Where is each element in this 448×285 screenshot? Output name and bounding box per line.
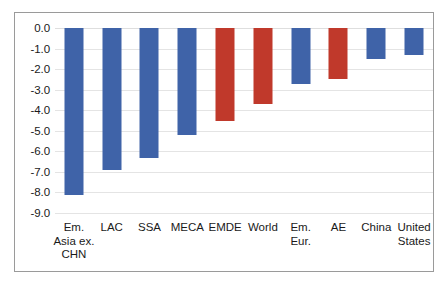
x-axis-tick-line: Eur. — [277, 235, 324, 249]
bar[interactable] — [405, 28, 424, 55]
bar[interactable] — [140, 28, 159, 158]
y-axis-tick-label: 0.0 — [34, 22, 50, 34]
bar[interactable] — [178, 28, 197, 135]
bar[interactable] — [291, 28, 310, 84]
x-axis-tick-line: Asia ex. — [50, 235, 97, 249]
bar[interactable] — [64, 28, 83, 195]
x-axis-tick-line: States — [391, 235, 438, 249]
bar[interactable] — [329, 28, 348, 79]
y-axis-tick-label: -1.0 — [31, 43, 50, 55]
chart-axis-area: 0.0-1.0-2.0-3.0-4.0-5.0-6.0-7.0-8.0-9.0 … — [15, 13, 433, 271]
y-axis-tick-label: -5.0 — [31, 125, 50, 137]
bar[interactable] — [253, 28, 272, 104]
y-axis: 0.0-1.0-2.0-3.0-4.0-5.0-6.0-7.0-8.0-9.0 — [15, 13, 55, 271]
bar[interactable] — [216, 28, 235, 121]
y-axis-tick-label: -8.0 — [31, 186, 50, 198]
bar[interactable] — [102, 28, 121, 170]
y-axis-tick-label: -3.0 — [31, 84, 50, 96]
x-axis-tick-line: CHN — [50, 248, 97, 262]
y-axis-tick-label: -4.0 — [31, 104, 50, 116]
chart-plot-frame: 0.0-1.0-2.0-3.0-4.0-5.0-6.0-7.0-8.0-9.0 … — [14, 12, 434, 272]
chart-figure: 0.0-1.0-2.0-3.0-4.0-5.0-6.0-7.0-8.0-9.0 … — [0, 0, 448, 285]
bar[interactable] — [367, 28, 386, 59]
y-axis-tick-label: -9.0 — [31, 207, 50, 219]
y-axis-tick-label: -6.0 — [31, 145, 50, 157]
y-axis-tick-label: -7.0 — [31, 166, 50, 178]
x-axis-tick-label: UnitedStates — [391, 221, 438, 248]
y-axis-tick-label: -2.0 — [31, 63, 50, 75]
x-axis-tick-line: United — [391, 221, 438, 235]
